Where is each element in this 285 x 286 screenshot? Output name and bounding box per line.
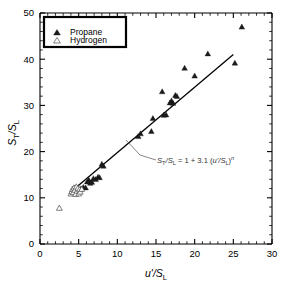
y-tick-label: 30 — [23, 100, 34, 111]
scatter-plot: 05101520253001020304050 ST/SL = 1 + 3.1 … — [0, 0, 285, 286]
data-point-propane — [192, 73, 198, 78]
x-tick-label: 5 — [76, 248, 81, 259]
x-tick-label: 15 — [151, 248, 162, 259]
x-axis-title: u'/SL — [145, 267, 167, 282]
fit-equation-annotation: ST/SL = 1 + 3.1 (u'/SL)n — [157, 155, 234, 166]
y-tick-label: 40 — [23, 54, 34, 65]
annotation-leader-line — [126, 140, 156, 160]
data-point-propane — [239, 24, 245, 29]
y-tick-label: 20 — [23, 146, 34, 157]
data-point-propane — [159, 89, 165, 94]
x-tick-label: 0 — [37, 248, 42, 259]
data-point-propane — [205, 51, 211, 56]
figure-container: 05101520253001020304050 ST/SL = 1 + 3.1 … — [0, 0, 285, 286]
legend-label-hydrogen: Hydrogen — [70, 35, 107, 45]
y-tick-label: 0 — [29, 238, 34, 249]
data-point-hydrogen — [56, 205, 62, 210]
y-tick-label: 10 — [23, 192, 34, 203]
data-point-propane — [150, 116, 156, 121]
x-tick-label: 25 — [228, 248, 239, 259]
data-point-propane — [149, 129, 155, 134]
x-tick-label: 30 — [267, 248, 278, 259]
data-markers — [56, 24, 244, 210]
y-tick-label: 50 — [23, 7, 34, 18]
data-point-propane — [182, 65, 188, 70]
legend: Propane Hydrogen — [44, 17, 126, 47]
x-tick-label: 10 — [112, 248, 123, 259]
x-tick-label: 20 — [189, 248, 200, 259]
y-axis-title: ST/SL — [6, 120, 21, 146]
data-point-propane — [232, 60, 238, 65]
fit-line — [72, 55, 233, 191]
